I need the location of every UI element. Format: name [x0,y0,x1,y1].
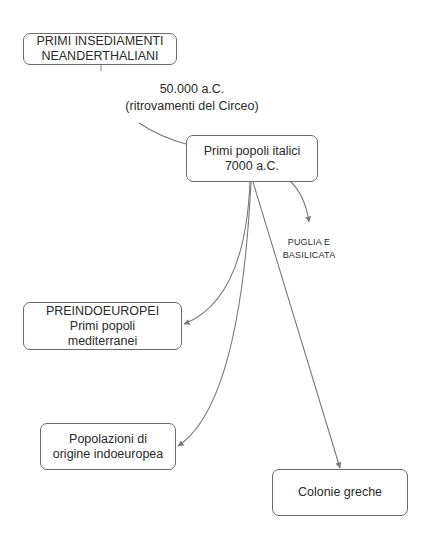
node-primi-insediamenti-neanderthaliani: PRIMI INSEDIAMENTI NEANDERTHALIANI [23,33,177,65]
label-puglia-basilicata: PUGLIA E BASILICATA [272,236,346,262]
connector-central-region [290,181,309,222]
node-preindoeuropei: PREINDOEUROPEI Primi popoli mediterranei [23,302,182,350]
label-text-line: (ritrovamenti del Circeo) [112,98,272,115]
node-text-line: PREINDOEUROPEI [46,304,159,319]
connector-date-central [139,123,186,144]
node-text-line: Colonie greche [298,485,382,500]
node-text-line: 7000 a.C. [225,159,279,174]
connector-central-indoeuropei [178,182,251,446]
label-text-line: 50.000 a.C. [112,81,272,98]
node-popolazioni-indoeuropee: Popolazioni di origine indoeuropea [40,423,176,470]
node-text-line: mediterranei [68,334,137,349]
node-primi-popoli-italici: Primi popoli italici 7000 a.C. [186,135,318,182]
node-text-line: Popolazioni di [69,432,147,447]
label-date-circeo: 50.000 a.C. (ritrovamenti del Circeo) [112,81,272,115]
node-text-line: Primi popoli italici [204,144,301,159]
node-colonie-greche: Colonie greche [272,469,408,516]
label-text-line: PUGLIA E [272,236,346,249]
node-text-line: Primi popoli [70,319,135,334]
node-text-line: NEANDERTHALIANI [41,49,158,64]
concept-map: PRIMI INSEDIAMENTI NEANDERTHALIANI 50.00… [0,0,439,539]
node-text-line: PRIMI INSEDIAMENTI [36,34,163,49]
connector-central-colonie [253,182,340,468]
node-text-line: origine indoeuropea [53,447,164,462]
connector-central-preindoeuropei [184,182,250,324]
label-text-line: BASILICATA [272,249,346,262]
